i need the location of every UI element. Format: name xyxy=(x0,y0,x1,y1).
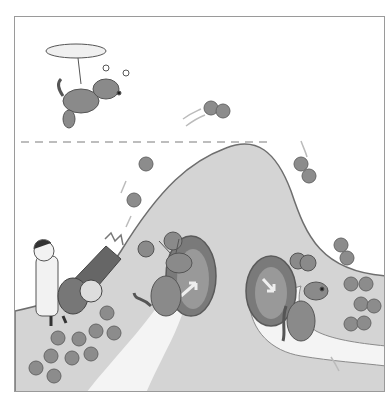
cartoon-illustration xyxy=(15,17,385,392)
flying-propeller-dog xyxy=(46,44,129,128)
illustration-frame xyxy=(14,16,385,392)
